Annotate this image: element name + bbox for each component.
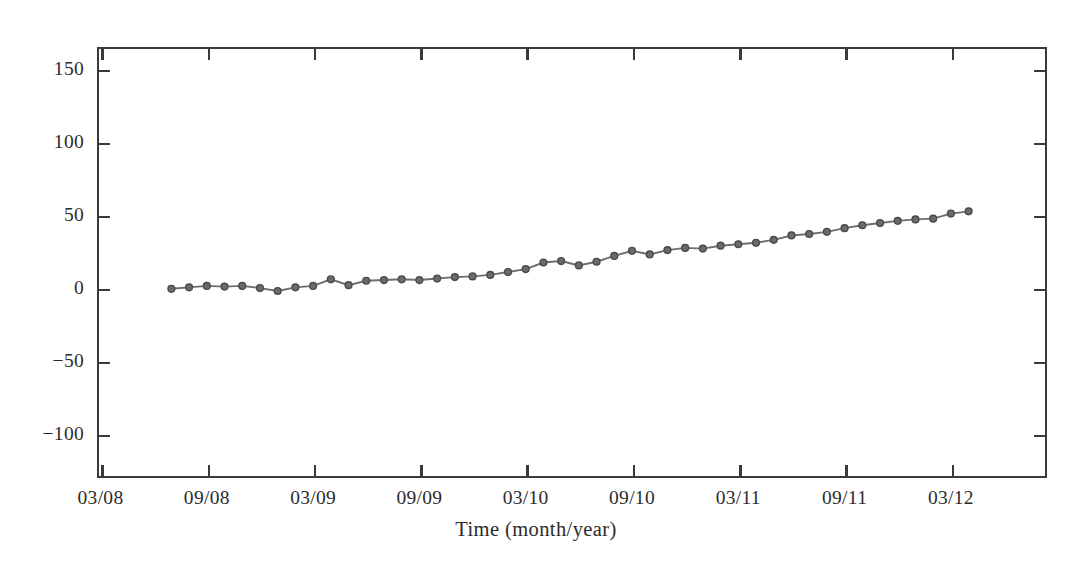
x-axis-tick-bottom [526, 465, 529, 476]
x-tick-label: 09/08 [184, 487, 230, 509]
x-axis-tick-bottom [633, 465, 636, 476]
x-axis-tick-bottom [420, 465, 423, 476]
x-axis-tick-top [208, 49, 211, 60]
x-tick-label: 03/12 [928, 487, 974, 509]
y-axis-tick-right [1034, 435, 1045, 438]
y-axis-tick-right [1034, 362, 1045, 365]
x-axis-tick-top [314, 49, 317, 60]
x-tick-label: 03/10 [503, 487, 549, 509]
x-axis-tick-top [739, 49, 742, 60]
x-axis-title: Time (month/year) [0, 518, 1072, 541]
y-axis-tick-right [1034, 216, 1045, 219]
x-tick-label: 03/08 [78, 487, 124, 509]
x-axis-tick-bottom [845, 465, 848, 476]
x-tick-label: 09/10 [609, 487, 655, 509]
x-axis-tick-bottom [952, 465, 955, 476]
x-axis-tick-top [420, 49, 423, 60]
y-axis-tick-right [1034, 143, 1045, 146]
x-tick-label: 09/11 [822, 487, 867, 509]
x-tick-label: 09/09 [396, 487, 442, 509]
y-axis-title-holder: Deformation (mm) [0, 47, 168, 478]
x-axis-tick-top [526, 49, 529, 60]
x-axis-tick-bottom [739, 465, 742, 476]
x-axis-tick-bottom [314, 465, 317, 476]
x-axis-tick-top [633, 49, 636, 60]
x-axis-tick-top [845, 49, 848, 60]
y-axis-tick-right [1034, 70, 1045, 73]
x-axis-tick-bottom [208, 465, 211, 476]
x-axis-tick-top [952, 49, 955, 60]
plot-area [97, 47, 1047, 478]
x-tick-label: 03/09 [290, 487, 336, 509]
chart-figure: −100−50050100150 03/0809/0803/0909/0903/… [0, 0, 1072, 562]
y-axis-tick-right [1034, 289, 1045, 292]
x-tick-label: 03/11 [716, 487, 761, 509]
